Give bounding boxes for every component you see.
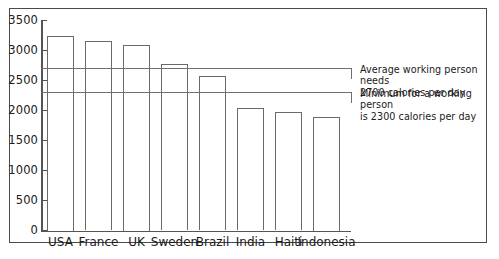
y-axis-tick-label-text: 2000 <box>8 105 38 117</box>
y-axis-tick-label-text: 3500 <box>8 15 38 27</box>
y-axis-tick-label-text: 2500 <box>8 75 38 87</box>
bar-india <box>237 108 264 230</box>
y-axis-tick <box>42 20 47 21</box>
bar-france <box>85 41 112 231</box>
bar-indonesia <box>313 117 340 231</box>
reference-line-2700 <box>41 68 351 69</box>
reference-line-2300 <box>41 92 351 93</box>
reference-leader-2300 <box>351 92 352 103</box>
chart-figure: 0500100015002000250030003500 USAFranceUK… <box>0 0 499 259</box>
bar-haiti <box>275 112 302 231</box>
bar-uk <box>123 45 150 231</box>
bar-usa <box>47 36 74 231</box>
x-axis-label-indonesia: Indonesia <box>282 235 372 249</box>
bar-sweden <box>161 64 188 231</box>
annotation-2300-calories: Minimum for a working person is 2300 cal… <box>360 88 490 123</box>
bar-brazil <box>199 76 226 230</box>
y-axis-tick-label-text: 3000 <box>8 45 38 57</box>
reference-leader-2700 <box>351 68 352 79</box>
y-axis-tick-label-text: 500 <box>16 195 38 207</box>
y-axis-tick-label-text: 1000 <box>8 165 38 177</box>
x-axis-line <box>41 231 351 233</box>
y-axis-tick-label-text: 1500 <box>8 135 38 147</box>
bar-chart-plot-area: 0500100015002000250030003500 USAFranceUK… <box>0 0 499 259</box>
